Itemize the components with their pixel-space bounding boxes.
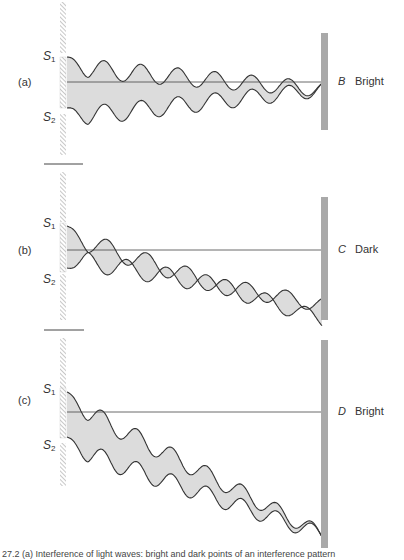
screen-b: [321, 197, 328, 320]
point-b-label: B: [338, 75, 345, 87]
barrier-top-c: [60, 338, 66, 388]
barrier-top-b: [60, 172, 66, 222]
result-dark-b: Dark: [355, 243, 378, 255]
figure-caption: 27.2 (a) Interference of light waves: br…: [2, 549, 335, 559]
barrier-bottom-a: [60, 114, 66, 155]
barrier-bottom-c: [60, 443, 66, 486]
screen-c: [321, 340, 328, 548]
barrier-center-a: [60, 57, 66, 108]
slit-s2-label-b: S2: [43, 272, 55, 287]
barrier-center-b: [60, 223, 66, 272]
screen-a: [321, 33, 328, 130]
barrier-bottom-b: [60, 274, 66, 320]
point-c-label: C: [338, 243, 346, 255]
panel-b-label: (b): [18, 244, 31, 256]
panel-a-label: (a): [18, 76, 31, 88]
interference-diagram: (a) S1 S2 B Bright (b) S1 S2 C Dark (c) …: [0, 0, 404, 560]
barrier-center-c: [60, 388, 66, 438]
barrier-top-a: [60, 2, 66, 53]
slit-s2-label-a: S2: [43, 110, 55, 125]
result-bright-a: Bright: [355, 75, 384, 87]
slit-s2-label-c: S2: [43, 438, 55, 453]
result-bright-c: Bright: [355, 405, 384, 417]
panel-c-label: (c): [18, 394, 31, 406]
point-d-label: D: [338, 405, 346, 417]
slit-s1-label-b: S1: [43, 216, 55, 231]
slit-s1-label-c: S1: [43, 382, 55, 397]
wave-band-a: [67, 57, 322, 124]
slit-s1-label-a: S1: [43, 49, 55, 64]
